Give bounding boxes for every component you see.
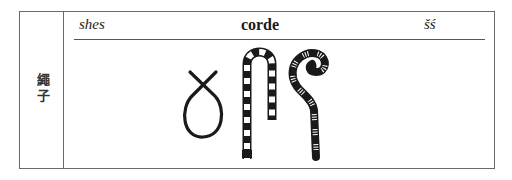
loop-rope-icon — [185, 72, 222, 137]
hobble-rope-icon — [242, 52, 272, 159]
coiled-rope-icon — [293, 53, 325, 157]
glyph-area — [0, 0, 512, 180]
